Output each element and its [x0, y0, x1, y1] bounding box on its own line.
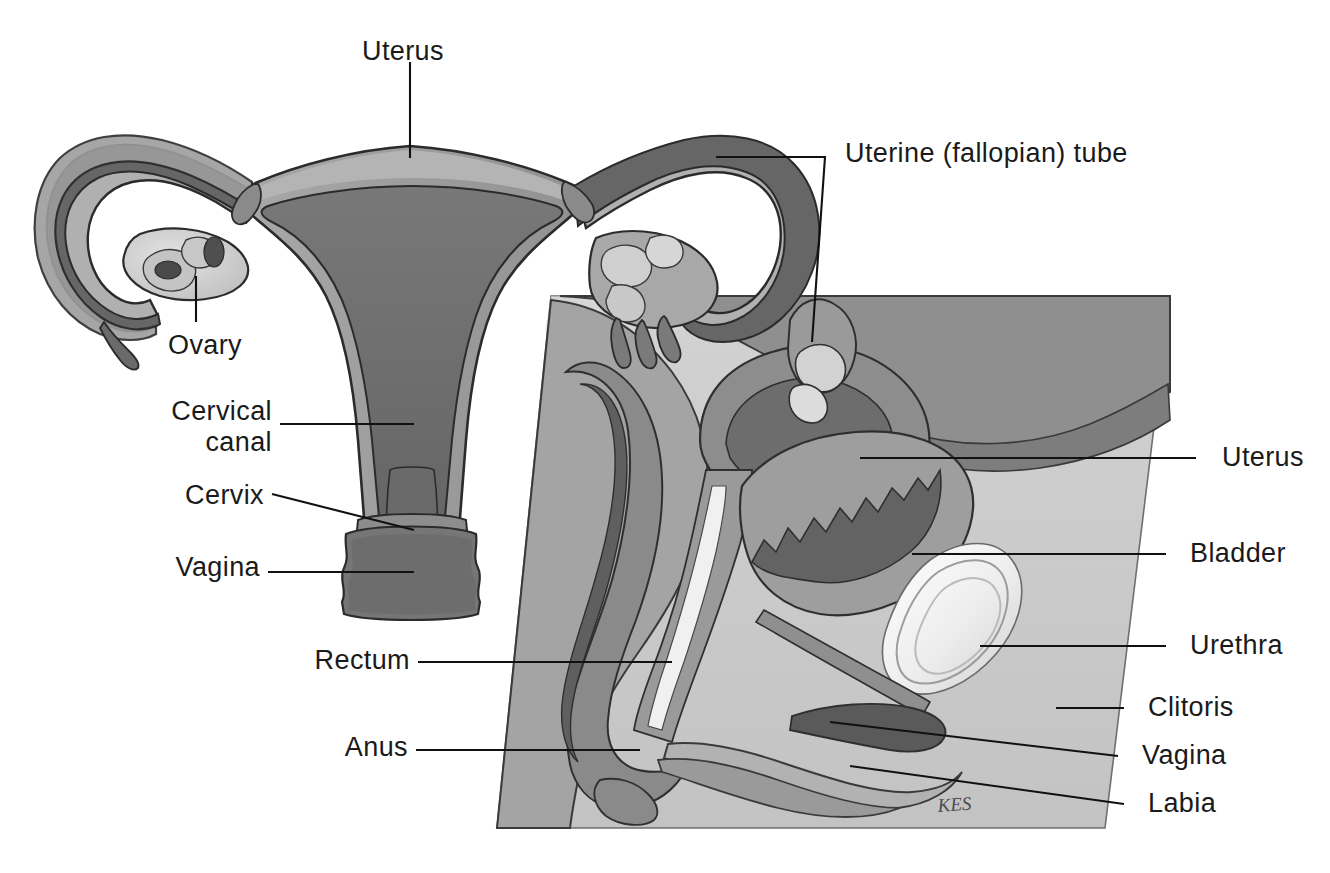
label-ovary: Ovary — [168, 330, 242, 361]
label-bladder: Bladder — [1190, 538, 1286, 569]
label-rectum: Rectum — [0, 645, 410, 676]
label-urethra: Urethra — [1190, 630, 1283, 661]
label-cervix: Cervix — [0, 480, 264, 511]
artist-signature: KES — [936, 793, 973, 816]
ovary-left — [123, 228, 248, 300]
label-vagina-right: Vagina — [1142, 740, 1226, 771]
label-uterus-right: Uterus — [1222, 442, 1304, 473]
label-vagina-left: Vagina — [0, 552, 260, 583]
label-labia: Labia — [1148, 788, 1216, 819]
label-cervical-canal: Cervical canal — [0, 396, 272, 458]
figure-canvas: KES — [0, 0, 1330, 873]
label-anus: Anus — [0, 732, 408, 763]
label-uterus-top: Uterus — [362, 36, 444, 67]
label-uterine-tube: Uterine (fallopian) tube — [845, 138, 1128, 169]
label-clitoris: Clitoris — [1148, 692, 1234, 723]
